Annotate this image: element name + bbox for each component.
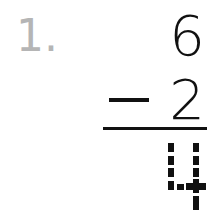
dotted-answer-4-icon	[0, 0, 221, 212]
